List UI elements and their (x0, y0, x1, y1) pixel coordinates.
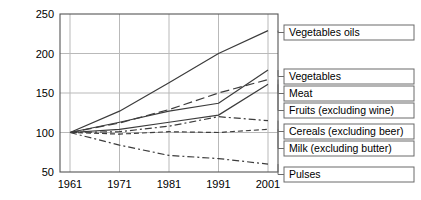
legend-label-vegetables: Vegetables (289, 70, 341, 82)
y-axis-labels: 50100150200250 (36, 8, 54, 178)
x-axis-labels: 19611971198119912001 (58, 178, 280, 190)
grid-lines (60, 14, 278, 172)
x-tick-label: 1971 (107, 178, 131, 190)
legend-item-vegetables-oils[interactable]: Vegetables oils (278, 25, 414, 40)
y-tick-label: 100 (36, 127, 54, 139)
x-tick-label: 1991 (206, 178, 230, 190)
legend-item-cereals-excluding-beer[interactable]: Cereals (excluding beer) (278, 121, 414, 139)
legend-item-vegetables[interactable]: Vegetables (278, 69, 414, 84)
chart-canvas: 5010015020025019611971198119912001Vegeta… (0, 0, 421, 200)
legend-label-cereals-excluding-beer: Cereals (excluding beer) (289, 125, 403, 137)
legend-label-pulses: Pulses (289, 168, 321, 180)
legend-item-pulses[interactable]: Pulses (278, 164, 414, 182)
y-tick-label: 200 (36, 48, 54, 60)
legend-label-milk-excluding-butter: Milk (excluding butter) (289, 142, 392, 154)
y-tick-label: 250 (36, 8, 54, 20)
legend-group: Vegetables oilsVegetablesMeatFruits (exc… (278, 25, 414, 182)
legend-label-meat: Meat (289, 87, 312, 99)
y-tick-label: 150 (36, 87, 54, 99)
x-tick-label: 1981 (157, 178, 181, 190)
line-chart: 5010015020025019611971198119912001Vegeta… (0, 0, 421, 200)
legend-label-fruits-excluding-wine: Fruits (excluding wine) (289, 104, 394, 116)
x-tick-label: 2001 (256, 178, 280, 190)
legend-label-vegetables-oils: Vegetables oils (289, 26, 360, 38)
y-tick-label: 50 (42, 166, 54, 178)
x-tick-label: 1961 (58, 178, 82, 190)
